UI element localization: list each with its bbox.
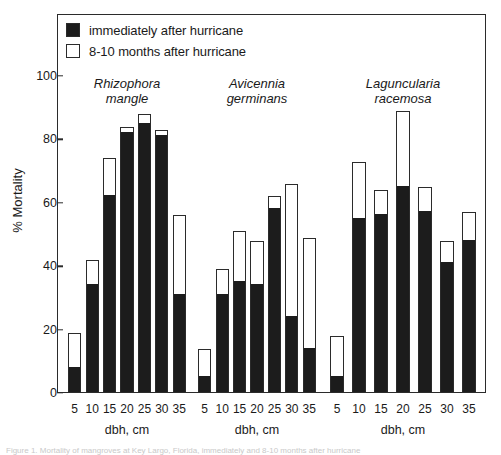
- bar: [198, 349, 211, 393]
- bar: [173, 215, 186, 393]
- bar-fill-immediately: [441, 262, 452, 392]
- x-tick-label: 20: [396, 402, 409, 416]
- y-tick-mark: [57, 329, 63, 330]
- bar-fill-immediately: [251, 284, 262, 392]
- group-title-line2: germinans: [190, 91, 324, 106]
- x-tick-label: 15: [103, 402, 116, 416]
- bar-fill-immediately: [269, 208, 280, 392]
- bar-fill-immediately: [199, 376, 210, 392]
- bar-fill-immediately: [331, 376, 342, 392]
- bar: [155, 130, 168, 393]
- bar-fill-immediately: [139, 123, 150, 392]
- bar-fill-immediately: [217, 294, 228, 392]
- figure-container: immediately after hurricane 8-10 months …: [0, 0, 501, 455]
- bar-fill-immediately: [87, 284, 98, 392]
- x-axis-title-2: dbh, cm: [235, 423, 279, 437]
- x-tick-label: 15: [374, 402, 387, 416]
- bar-fill-immediately: [104, 195, 115, 392]
- bar: [233, 231, 246, 393]
- x-axis-title-1: dbh, cm: [105, 423, 149, 437]
- x-tick-label: 20: [120, 402, 133, 416]
- bar: [285, 184, 298, 393]
- figure-caption: Figure 1. Mortality of mangroves at Key …: [6, 446, 496, 455]
- group-title-3: Lagunculariaracemosa: [320, 76, 486, 106]
- x-tick-label: 35: [303, 402, 316, 416]
- bar-fill-immediately: [174, 294, 185, 392]
- bar: [268, 196, 281, 393]
- bar-fill-immediately: [397, 186, 408, 392]
- bar-fill-immediately: [375, 214, 386, 392]
- x-tick-label: 30: [155, 402, 168, 416]
- bar-fill-immediately: [353, 218, 364, 392]
- bar: [103, 158, 116, 393]
- bar-fill-immediately: [304, 348, 315, 392]
- bar: [138, 114, 151, 393]
- x-tick-label: 5: [201, 402, 208, 416]
- x-tick-label: 15: [233, 402, 246, 416]
- y-tick-mark: [57, 265, 63, 266]
- bar-fill-immediately: [463, 240, 474, 392]
- bar: [86, 260, 99, 393]
- plot-content: 5101520253035Rhizophoramangledbh, cm5101…: [0, 0, 501, 455]
- bar: [250, 241, 263, 393]
- x-axis-title-3: dbh, cm: [381, 423, 425, 437]
- group-title-line1: Rhizophora: [60, 76, 194, 91]
- bar-fill-immediately: [69, 367, 80, 392]
- y-tick-mark: [57, 139, 63, 140]
- bar-fill-immediately: [234, 281, 245, 392]
- x-tick-label: 35: [462, 402, 475, 416]
- group-title-2: Avicenniagerminans: [190, 76, 324, 106]
- x-tick-label: 10: [352, 402, 365, 416]
- x-tick-label: 20: [250, 402, 263, 416]
- group-title-1: Rhizophoramangle: [60, 76, 194, 106]
- bar: [462, 212, 475, 393]
- bar: [68, 333, 81, 393]
- bar: [440, 241, 453, 393]
- x-tick-label: 25: [138, 402, 151, 416]
- group-title-line2: mangle: [60, 91, 194, 106]
- bar-fill-immediately: [121, 132, 132, 392]
- x-tick-label: 5: [71, 402, 78, 416]
- x-tick-label: 10: [215, 402, 228, 416]
- x-tick-label: 25: [418, 402, 431, 416]
- group-title-line1: Avicennia: [190, 76, 324, 91]
- bar: [330, 336, 343, 393]
- bar: [120, 127, 133, 393]
- x-tick-label: 25: [268, 402, 281, 416]
- bar: [216, 269, 229, 393]
- bar-fill-immediately: [156, 135, 167, 392]
- bar: [418, 187, 431, 393]
- bar: [396, 111, 409, 393]
- x-tick-label: 35: [173, 402, 186, 416]
- x-tick-label: 10: [85, 402, 98, 416]
- group-title-line1: Laguncularia: [320, 76, 486, 91]
- x-tick-label: 30: [440, 402, 453, 416]
- y-tick-mark: [57, 392, 63, 393]
- bar-fill-immediately: [286, 316, 297, 392]
- bar: [374, 190, 387, 393]
- x-tick-label: 5: [334, 402, 341, 416]
- x-tick-label: 30: [285, 402, 298, 416]
- bar: [303, 238, 316, 393]
- group-title-line2: racemosa: [320, 91, 486, 106]
- y-tick-mark: [57, 202, 63, 203]
- bar-fill-immediately: [419, 211, 430, 392]
- bar: [352, 162, 365, 393]
